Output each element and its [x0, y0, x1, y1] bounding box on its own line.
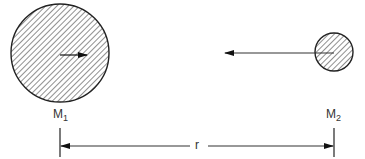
mass-1-symbol: M — [53, 107, 63, 121]
mass-1-subscript: 1 — [63, 113, 68, 123]
gravitation-diagram — [0, 0, 365, 159]
mass-2 — [315, 33, 353, 71]
distance-label: r — [195, 139, 199, 151]
mass-2-symbol: M — [326, 107, 336, 121]
mass-1-label: M1 — [53, 108, 68, 123]
mass-2-subscript: 2 — [336, 113, 341, 123]
mass-2-label: M2 — [326, 108, 341, 123]
mass-1 — [11, 4, 109, 102]
